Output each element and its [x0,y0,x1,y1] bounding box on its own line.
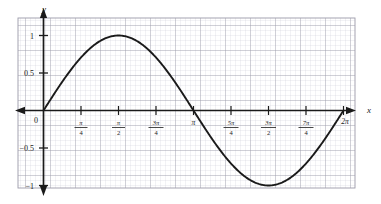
fraction-denominator: 2 [267,129,270,136]
fraction-numerator: 7π [303,119,310,126]
sine-graph-svg: y x 0 1 0.5 −0.5 −1 π 4 π 2 3π 4 π 5π 4 [0,0,381,204]
x-axis-label: x [366,105,371,115]
fraction-numerator: 5π [228,119,235,126]
fraction-numerator: 3π [152,119,160,126]
fraction-numerator: 3π [264,119,272,126]
fraction-denominator: 2 [117,129,120,136]
x-tick-label-2pi: 2π [341,117,349,126]
x-tick-label-pi: π [192,118,196,127]
y-tick-label-0-5: 0.5 [24,69,34,78]
y-tick-label-neg-1: −1 [25,182,34,191]
y-tick-label-1: 1 [30,32,34,41]
y-tick-label-neg-0-5: −0.5 [19,144,34,153]
grid-paper [18,18,355,188]
origin-label: 0 [34,116,38,125]
y-axis-label: y [41,4,46,14]
graph-figure: y x 0 1 0.5 −0.5 −1 π 4 π 2 3π 4 π 5π 4 [0,0,381,204]
